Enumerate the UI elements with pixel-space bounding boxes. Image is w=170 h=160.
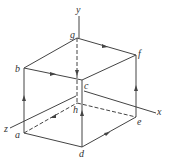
y-axis-label: y bbox=[76, 5, 80, 15]
arrow-right-icon bbox=[102, 44, 108, 48]
arrow-left-icon bbox=[50, 114, 56, 118]
vertex-c-label: c bbox=[84, 81, 88, 91]
vertex-d-label: d bbox=[79, 149, 84, 159]
arrow-up-icon bbox=[22, 95, 26, 101]
edge-de bbox=[82, 117, 136, 147]
arrow-right-icon bbox=[50, 72, 56, 76]
vertex-e-label: e bbox=[137, 117, 141, 127]
arrow-up-icon bbox=[134, 85, 138, 91]
edge-cf bbox=[82, 55, 136, 80]
z-axis bbox=[10, 96, 76, 128]
arrow-down-icon bbox=[75, 70, 79, 76]
edge-ad bbox=[24, 133, 82, 147]
z-axis-label: z bbox=[4, 124, 8, 134]
x-axis-label: x bbox=[157, 107, 161, 117]
vertex-b-label: b bbox=[15, 64, 20, 74]
x-axis bbox=[84, 91, 156, 113]
vertex-f-label: f bbox=[138, 49, 141, 59]
vertex-a-label: a bbox=[15, 130, 20, 140]
vertex-g-label: g bbox=[70, 30, 75, 40]
vertex-h-label: h bbox=[73, 105, 78, 115]
edge-he bbox=[77, 103, 136, 117]
arrow-right-icon bbox=[104, 132, 110, 136]
cube-diagram: y x z g f b c h e a d bbox=[0, 0, 170, 160]
edge-bg bbox=[24, 38, 77, 68]
arrow-up-icon bbox=[80, 110, 84, 116]
